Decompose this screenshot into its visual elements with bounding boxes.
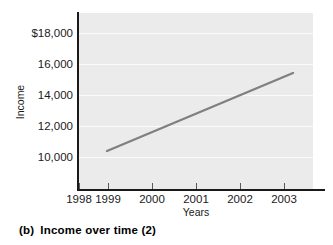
x-axis-tick-label: 1999 [95,193,121,206]
x-axis-tick-label: 2002 [227,193,253,206]
gridline [79,64,313,65]
x-axis-tick [79,183,80,189]
x-axis-tick [240,183,241,189]
x-axis-tick [108,183,109,189]
y-axis-title: Income [14,72,26,132]
x-axis-tick [152,183,153,189]
y-axis-tick-labels: $18,000 16,000 14,000 12,000 10,000 [0,0,73,245]
x-axis-title: Years [79,206,313,218]
x-axis-tick-label: 2003 [271,193,297,206]
gridline [79,157,313,158]
y-axis-tick-label: 10,000 [38,151,73,163]
gridline [79,33,313,34]
x-axis-tick [196,183,197,189]
y-axis-tick-label: 14,000 [38,89,73,101]
x-axis-tick-label: 2000 [139,193,165,206]
x-axis-tick-label: 2001 [183,193,209,206]
figure-income-over-time: $18,000 16,000 14,000 12,000 10,000 1998… [0,0,333,245]
figure-caption: (b)Income over time (2) [19,224,156,236]
gridline [79,126,313,127]
figure-caption-text: Income over time (2) [40,224,156,236]
x-axis-tick [284,183,285,189]
y-axis-tick-label: 12,000 [38,120,73,132]
x-axis-tick-label: 1998 [66,193,92,206]
y-axis-tick-label: 16,000 [38,58,73,70]
x-axis-line [77,189,325,191]
gridline [79,95,313,96]
y-axis-line [77,12,79,191]
plot-area [79,13,313,190]
figure-caption-index: (b) [19,224,34,236]
y-axis-tick-label: $18,000 [31,27,73,39]
